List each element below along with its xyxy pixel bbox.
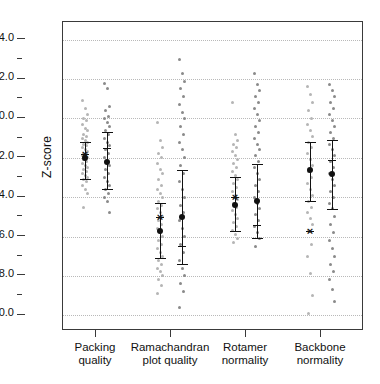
y-tick-mark <box>17 196 25 197</box>
data-point <box>178 259 181 262</box>
data-point <box>159 192 162 195</box>
data-point <box>103 176 106 179</box>
data-point <box>181 267 184 270</box>
data-point <box>258 207 261 210</box>
mean-marker <box>104 159 110 165</box>
data-point <box>106 121 109 124</box>
data-point <box>333 215 336 218</box>
y-tick-label: 4.0 <box>0 31 14 43</box>
data-point <box>181 111 184 114</box>
data-point <box>81 123 84 126</box>
data-point <box>307 109 310 112</box>
error-bar-cap <box>102 132 113 133</box>
plot-area: ×××× <box>62 21 363 330</box>
data-point <box>161 146 164 149</box>
data-point <box>178 180 181 183</box>
data-point <box>328 278 331 281</box>
data-point <box>231 101 234 104</box>
error-bar-cap <box>252 238 263 239</box>
data-point <box>329 101 332 104</box>
data-point <box>329 131 332 134</box>
mean-marker <box>307 167 313 173</box>
data-point <box>157 178 160 181</box>
data-point <box>306 85 309 88</box>
data-point <box>311 294 314 297</box>
data-point <box>183 274 186 277</box>
data-point <box>331 119 334 122</box>
error-bar-cap <box>177 264 188 265</box>
data-point <box>156 292 159 295</box>
data-point <box>106 87 109 90</box>
y-tick-mark <box>17 38 25 39</box>
data-point <box>311 135 314 138</box>
data-point <box>103 117 106 120</box>
x-tick <box>170 330 171 337</box>
data-point <box>231 209 234 212</box>
data-point <box>161 235 164 238</box>
data-point <box>258 89 261 92</box>
data-point <box>333 184 336 187</box>
data-point <box>231 150 234 153</box>
data-point <box>181 72 184 75</box>
data-point <box>254 95 257 98</box>
data-point <box>333 95 336 98</box>
data-point <box>182 95 185 98</box>
data-point <box>160 156 163 159</box>
data-point <box>236 217 239 220</box>
data-point <box>309 93 312 96</box>
data-point <box>108 184 111 187</box>
median-tick <box>103 148 111 149</box>
y-axis-title: Z-score <box>40 112 54 202</box>
data-point <box>232 162 235 165</box>
data-point <box>306 123 309 126</box>
data-point <box>254 125 257 128</box>
data-point <box>258 178 261 181</box>
data-point <box>183 80 186 83</box>
data-point <box>161 196 164 199</box>
y-tick-mark <box>17 274 25 275</box>
data-point <box>179 282 182 285</box>
data-point <box>108 211 111 214</box>
x-tick <box>95 330 96 337</box>
data-point <box>85 135 88 138</box>
data-point <box>160 284 163 287</box>
median-x-marker: × <box>82 148 88 159</box>
data-point <box>178 103 181 106</box>
data-point <box>181 148 184 151</box>
y-tick-mark <box>17 235 25 236</box>
data-point <box>84 107 87 110</box>
data-point <box>157 278 160 281</box>
data-point <box>254 245 257 248</box>
data-point <box>86 129 89 132</box>
x-axis-label: Backbonenormality <box>272 341 368 367</box>
data-point <box>85 119 88 122</box>
data-point <box>329 263 332 266</box>
data-point <box>86 166 89 169</box>
y-tick-mark <box>17 314 25 315</box>
y-tick-mark <box>17 176 22 177</box>
data-point <box>157 152 160 155</box>
data-point <box>306 152 309 155</box>
data-point <box>236 237 239 240</box>
data-point <box>107 115 110 118</box>
y-tick-label: −8.0 <box>0 267 14 279</box>
data-point <box>253 166 256 169</box>
median-tick <box>253 225 261 226</box>
data-point <box>331 288 334 291</box>
x-tick <box>320 330 321 337</box>
gridline <box>63 118 362 119</box>
data-point <box>328 239 331 242</box>
data-point <box>236 158 239 161</box>
data-point <box>253 137 256 140</box>
plot-inner: ×××× <box>63 22 362 329</box>
mean-marker <box>232 202 238 208</box>
data-point <box>257 101 260 104</box>
data-point <box>160 184 163 187</box>
data-point <box>257 131 260 134</box>
data-point <box>161 172 164 175</box>
data-point <box>159 270 162 273</box>
error-bar-cap <box>305 201 316 202</box>
data-point <box>328 202 331 205</box>
data-point <box>107 192 110 195</box>
data-point <box>183 117 186 120</box>
